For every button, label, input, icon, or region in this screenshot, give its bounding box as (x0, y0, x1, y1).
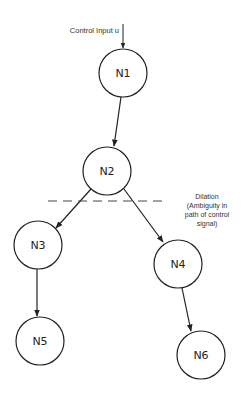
node-n6: N6 (177, 331, 225, 379)
control-input: Control Input u (70, 24, 123, 48)
node-label: N2 (99, 165, 114, 178)
node-n1: N1 (99, 49, 147, 97)
node-label: N4 (170, 258, 185, 271)
edge-n4-n6 (182, 288, 191, 331)
note-line: path of control (185, 211, 230, 219)
node-n4: N4 (154, 240, 202, 288)
node-label: N6 (193, 349, 208, 362)
dilation-note: Dilation (Ambiguity in path of control s… (185, 193, 230, 228)
edge-n1-n2 (114, 97, 121, 146)
note-line: signal) (197, 220, 218, 228)
node-n2: N2 (83, 147, 131, 195)
node-n3: N3 (14, 221, 62, 269)
node-n5: N5 (16, 317, 64, 365)
edge-n2-n3 (56, 189, 91, 228)
node-label: N5 (32, 335, 47, 348)
diagram-canvas: Control Input u N1 N2 N3 N4 N5 N6 Dilati… (0, 0, 245, 399)
note-line: (Ambiguity in (187, 202, 228, 210)
input-label: Control Input u (70, 26, 119, 35)
edge-n2-n4 (124, 189, 163, 242)
note-line: Dilation (195, 193, 218, 200)
node-label: N1 (115, 67, 130, 80)
node-label: N3 (30, 239, 45, 252)
edges (37, 97, 191, 331)
